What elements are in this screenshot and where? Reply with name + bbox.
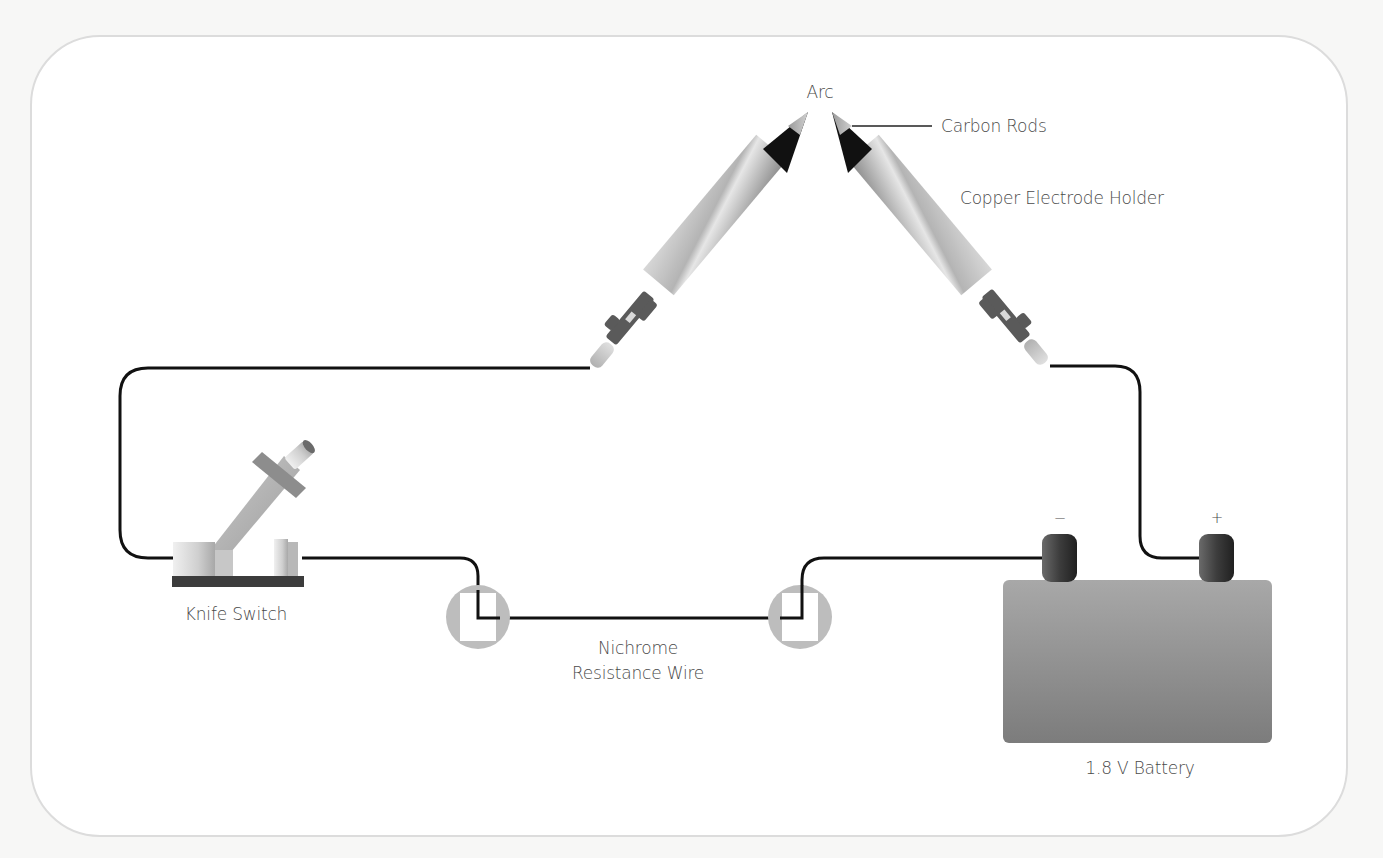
- left-electrode: [588, 112, 808, 370]
- positive-terminal: [1199, 534, 1234, 582]
- copper-electrode-holder-label: Copper Electrode Holder: [960, 188, 1164, 208]
- wire-right-electrode-to-positive: [1050, 366, 1202, 558]
- right-electrode: [832, 112, 1050, 367]
- nichrome-clamp-left: [446, 585, 510, 649]
- nichrome-label-line2: Resistance Wire: [572, 663, 704, 683]
- wire-left-electrode-to-switch: [120, 368, 590, 558]
- battery-label: 1.8 V Battery: [1085, 758, 1194, 778]
- positive-terminal-label: +: [1211, 509, 1223, 527]
- negative-terminal-label: −: [1054, 509, 1066, 527]
- knife-switch-label: Knife Switch: [185, 604, 287, 624]
- circuit-diagram: [0, 0, 1383, 858]
- battery: [1003, 534, 1272, 743]
- arc-label: Arc: [807, 82, 834, 102]
- nichrome-clamp-right: [768, 585, 832, 649]
- nichrome-label-line1: Nichrome: [598, 638, 678, 658]
- nichrome-wire: [478, 558, 1046, 618]
- knife-switch[interactable]: [172, 438, 317, 587]
- negative-terminal: [1042, 534, 1077, 582]
- carbon-rods-label: Carbon Rods: [941, 116, 1047, 136]
